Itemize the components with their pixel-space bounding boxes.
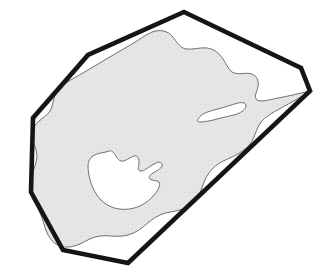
shaded-region [30, 31, 310, 247]
shaded-region-fill [30, 31, 310, 247]
figure-svg [0, 0, 326, 276]
figure-canvas: A thick black irregular octagonal outlin… [0, 0, 326, 276]
